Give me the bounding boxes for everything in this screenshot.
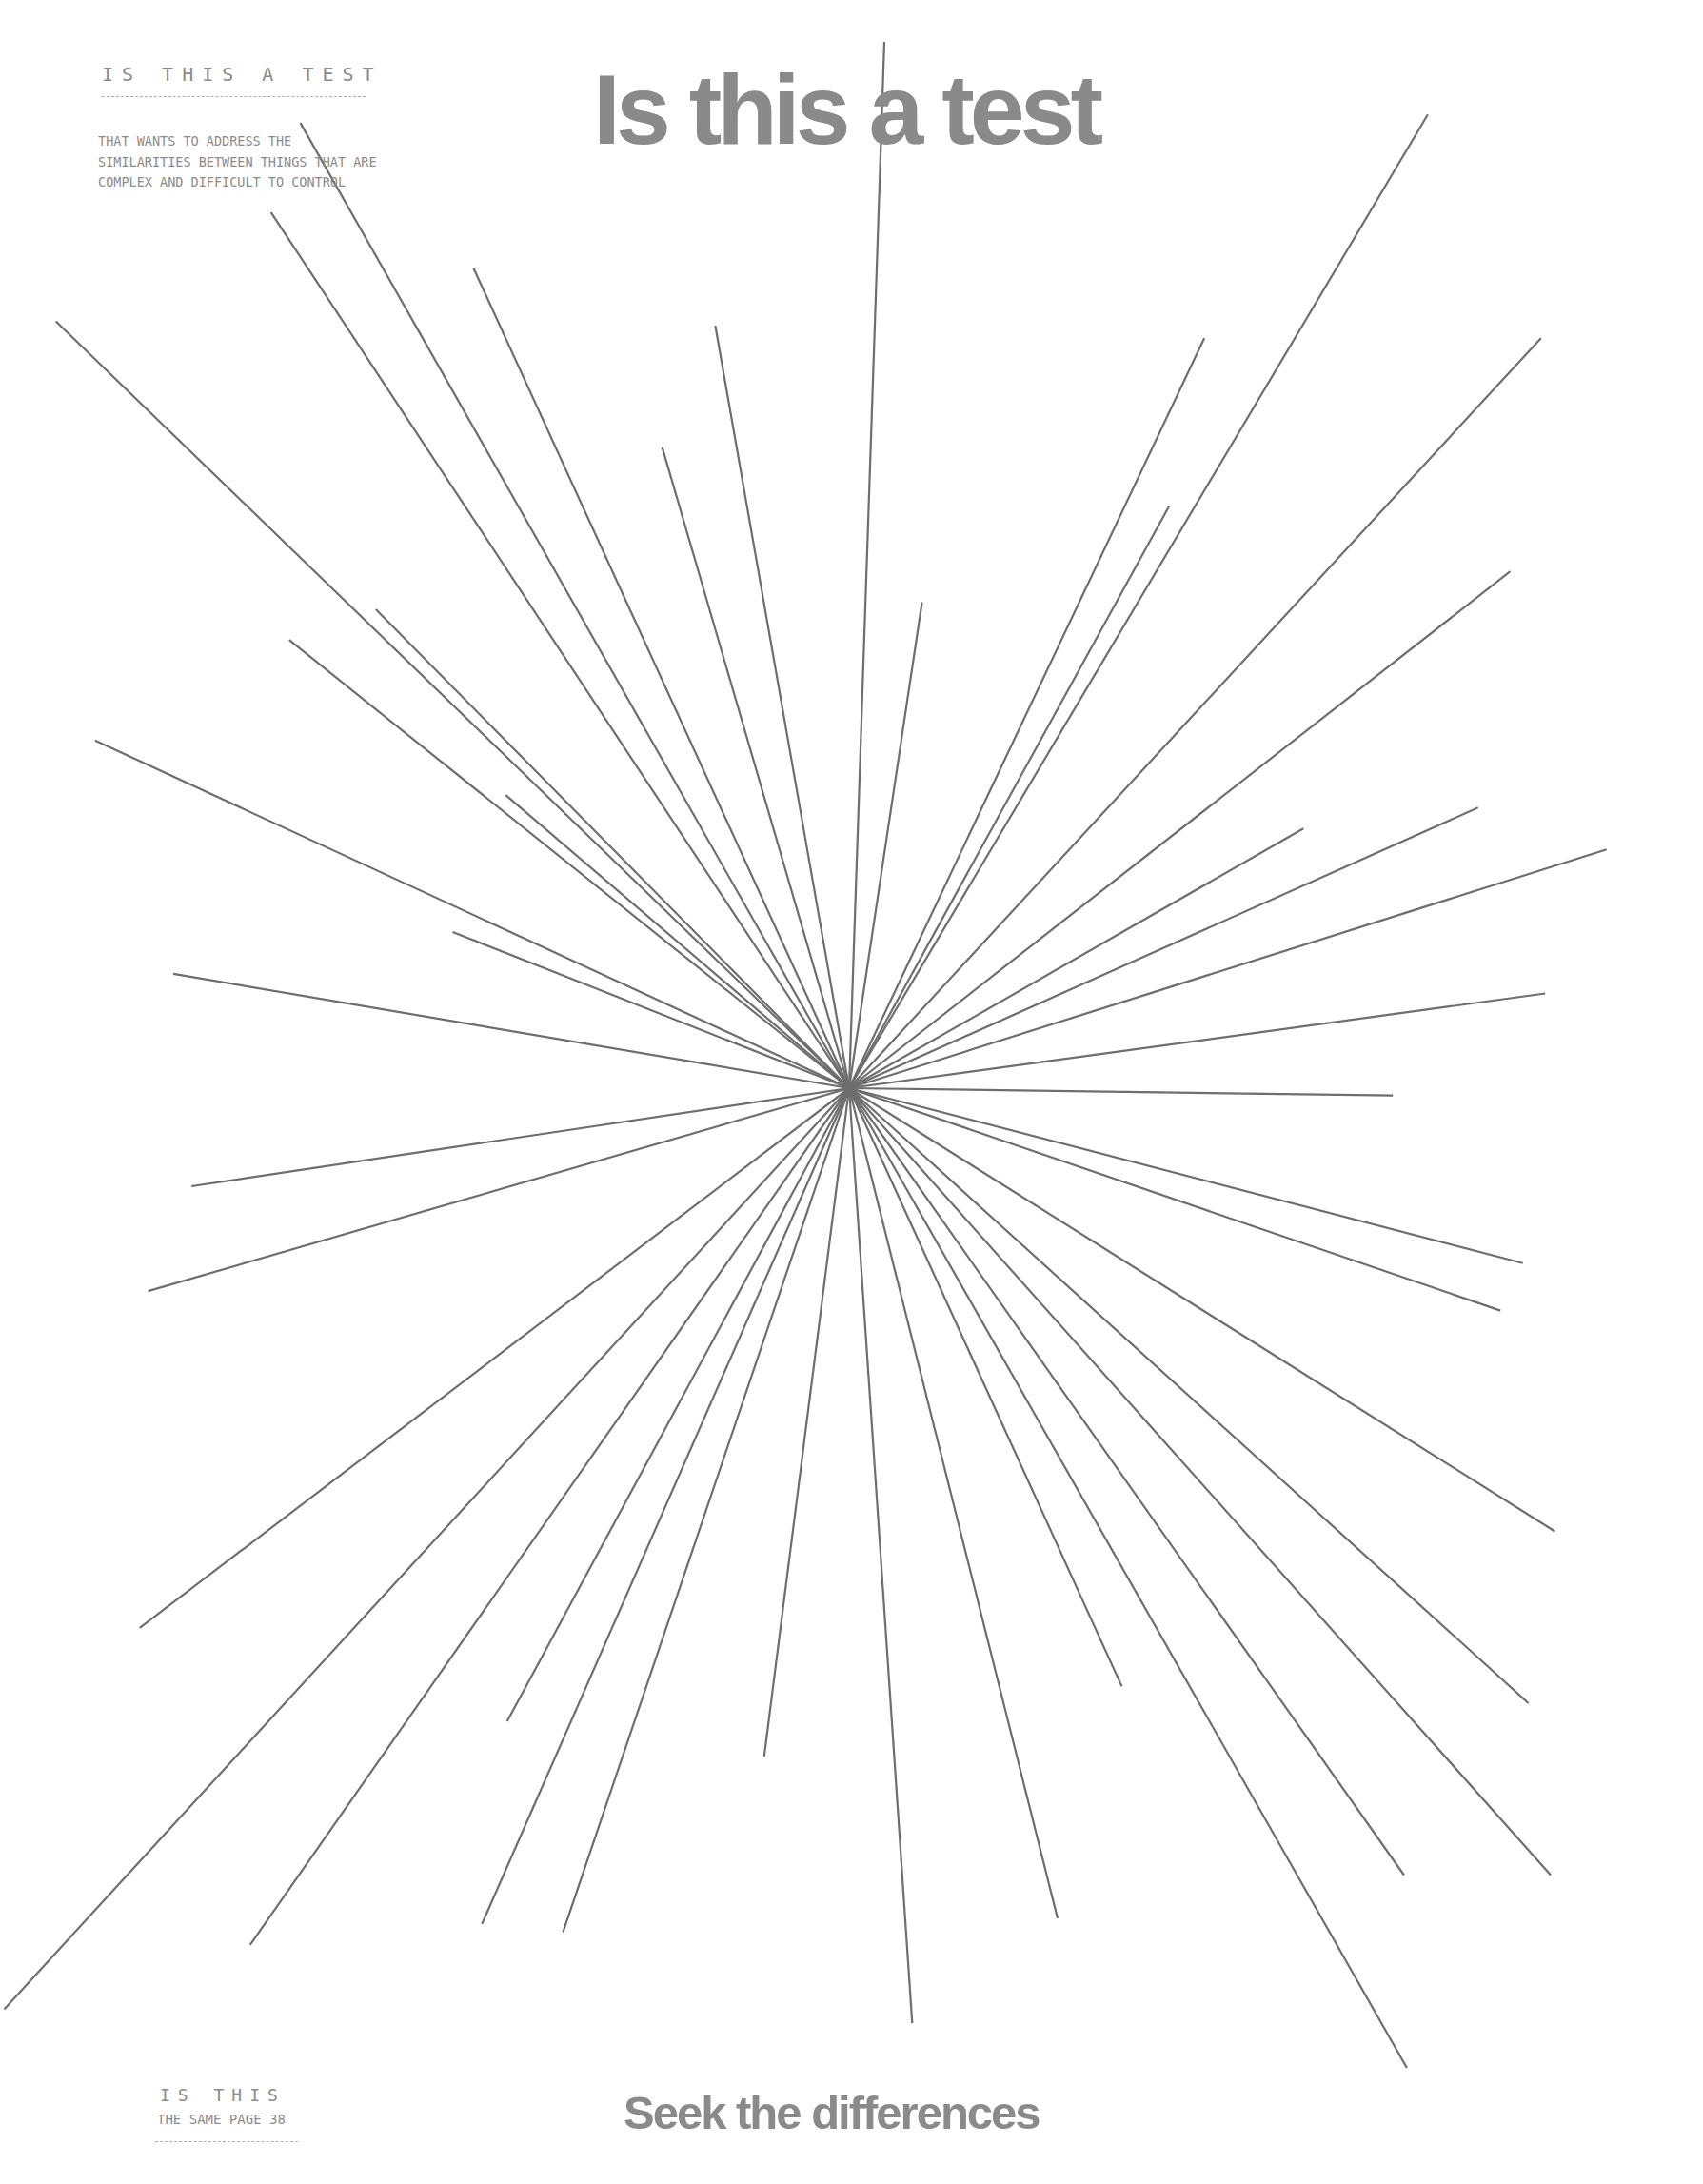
top-dashed-rule	[102, 96, 366, 97]
top-body-text: THAT WANTS TO ADDRESS THE SIMILARITIES B…	[98, 131, 384, 193]
ray-line	[764, 1088, 849, 1757]
page-title: Is this a test	[593, 53, 1099, 167]
ray-line	[849, 828, 1303, 1088]
subtitle: Seek the differences	[624, 2086, 1040, 2139]
ray-line	[849, 1088, 1404, 1876]
ray-line	[849, 1088, 1554, 1532]
ray-line	[849, 849, 1607, 1088]
page-number-line: THE SAME PAGE 38	[157, 2112, 286, 2127]
ray-line	[563, 1088, 849, 1933]
ray-line	[849, 114, 1428, 1088]
ray-line	[482, 1088, 849, 1924]
ray-line	[849, 603, 922, 1089]
top-label: IS THIS A TEST	[102, 63, 383, 86]
ray-line	[663, 447, 849, 1088]
ray-line	[301, 123, 850, 1088]
bottom-label: IS THIS	[160, 2085, 286, 2105]
ray-line	[191, 1088, 849, 1186]
ray-line	[849, 1088, 1529, 1703]
ray-line	[474, 268, 850, 1088]
ray-line	[505, 795, 849, 1088]
ray-line	[4, 1088, 849, 2009]
ray-line	[849, 338, 1204, 1088]
ray-line	[250, 1088, 849, 1945]
ray-line	[95, 741, 849, 1088]
starburst-lines	[0, 0, 1703, 2184]
ray-line	[849, 1088, 912, 2023]
ray-line	[849, 1088, 1523, 1263]
ray-line	[289, 640, 849, 1088]
bottom-dashed-rule	[155, 2141, 298, 2142]
ray-line	[849, 1088, 1393, 1096]
ray-line	[849, 338, 1541, 1088]
ray-line	[271, 212, 849, 1088]
ray-line	[849, 1088, 1122, 1686]
ray-line	[849, 1088, 1551, 1876]
ray-line	[849, 1088, 1058, 1918]
ray-line	[453, 932, 850, 1088]
ray-line	[149, 1088, 849, 1291]
ray-line	[140, 1088, 849, 1628]
ray-line	[849, 42, 884, 1088]
ray-line	[849, 506, 1169, 1088]
ray-line	[849, 1088, 1407, 2068]
ray-line	[849, 1088, 1500, 1311]
